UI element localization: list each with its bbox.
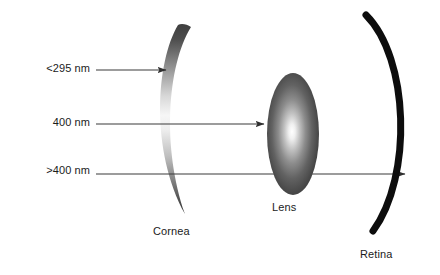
lens-shape bbox=[267, 73, 319, 195]
ray-label-400: 400 nm bbox=[8, 116, 90, 128]
ray-label-uvc: <295 nm bbox=[8, 62, 90, 74]
cornea-shape bbox=[160, 24, 191, 214]
eye-light-transmission-diagram: <295 nm 400 nm >400 nm Cornea Lens Retin… bbox=[0, 0, 440, 275]
retina-label: Retina bbox=[360, 248, 392, 260]
ray-label-visible: >400 nm bbox=[8, 164, 90, 176]
retina-shape bbox=[366, 15, 401, 231]
diagram-canvas bbox=[0, 0, 440, 275]
lens-label: Lens bbox=[272, 201, 296, 213]
cornea-label: Cornea bbox=[153, 225, 190, 237]
